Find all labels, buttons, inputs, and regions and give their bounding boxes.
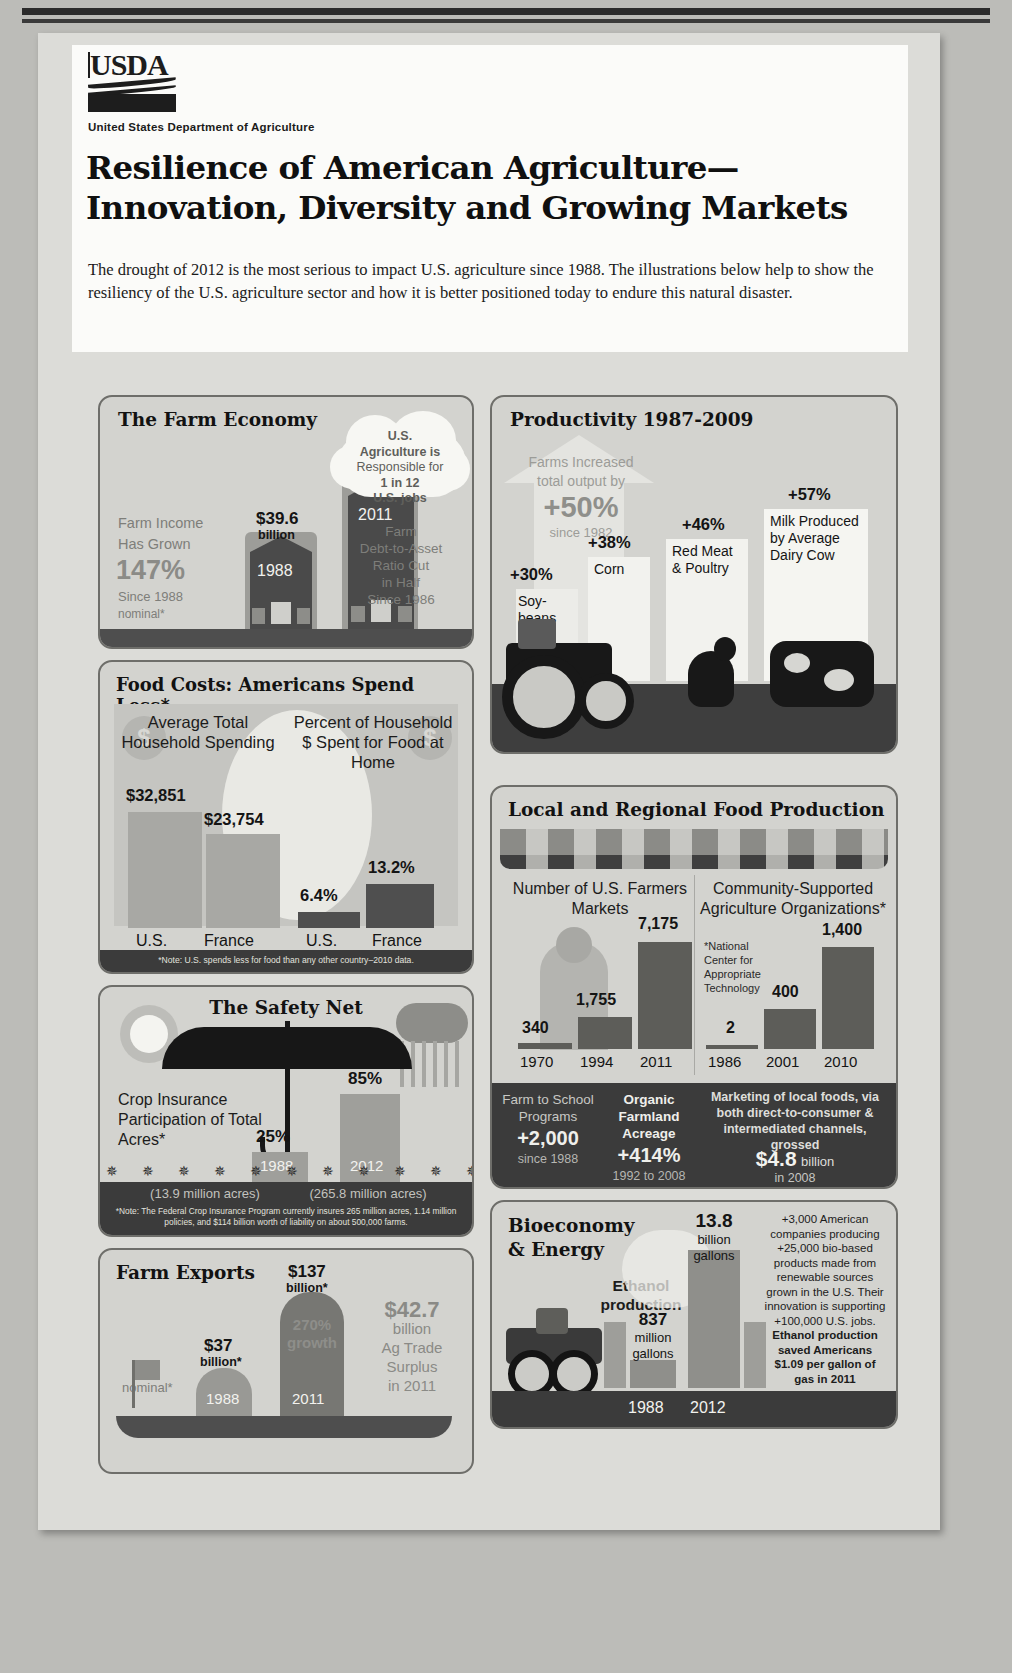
csa-footnote: *National Center for Appropriate Technol… — [704, 939, 776, 995]
label-red-meat-poultry: Red Meat & Poultry — [672, 543, 744, 577]
title-line-1: Resilience of American Agriculture— — [86, 148, 886, 188]
chicken-head — [714, 637, 736, 661]
jobs-cloud: U.S. Agriculture is Responsible for 1 in… — [330, 411, 470, 513]
flag-pole — [132, 1360, 135, 1408]
cloud-line-4: 1 in 12 — [330, 476, 470, 492]
value-csa-1986: 2 — [726, 1019, 735, 1037]
tractor-cab — [518, 619, 556, 649]
year-markets-1994: 1994 — [580, 1053, 613, 1070]
surplus-l4: in 2011 — [364, 1376, 460, 1395]
bioeconomy-title-text: Bioeconomy & Energy — [508, 1215, 635, 1260]
surplus-l3: Surplus — [364, 1357, 460, 1376]
food-costs-note: *Note: U.S. spends less for food than an… — [100, 955, 472, 966]
panel-productivity: Productivity 1987-2009 Farms Increased t… — [490, 395, 898, 754]
value-2012-insurance: 85% — [348, 1069, 382, 1089]
farm-to-school-sub: since 1988 — [498, 1151, 598, 1168]
cow-spot-2 — [824, 669, 854, 691]
year-ethanol-2012: 2012 — [690, 1399, 726, 1417]
marketing-big: $4.8 — [756, 1147, 797, 1170]
arrow-line-2: total output by — [506, 472, 656, 491]
farm-to-school-big: +2,000 — [498, 1125, 598, 1151]
title-line-2: Innovation, Diversity and Growing Market… — [86, 188, 886, 228]
top-rule-thick — [22, 8, 990, 15]
infographic-page: USDA United States Department of Agricul… — [0, 0, 1012, 1673]
usda-logo: USDA — [88, 52, 176, 112]
cloud-line-2: Agriculture is — [330, 445, 470, 461]
export-growth: 270% growth — [280, 1316, 344, 1352]
value-csa-2001: 400 — [772, 983, 799, 1001]
farm-exports-nominal: nominal* — [122, 1380, 173, 1395]
debt-line-4: in Half — [336, 574, 466, 591]
ship-icon — [116, 1416, 452, 1438]
marketing-sub: in 2008 — [700, 1170, 890, 1186]
farm-income-pct: 147% — [116, 555, 185, 586]
panel-farm-exports: Farm Exports nominal* 1988 $37 billion* … — [98, 1248, 474, 1474]
barn-1988-unit: billion — [258, 528, 295, 542]
organic-farmland-title: Organic Farmland Acreage — [602, 1091, 696, 1142]
flag-icon — [134, 1360, 160, 1380]
logo-wordmark: USDA — [90, 50, 176, 80]
organic-farmland-sub: 1992 to 2008 — [602, 1168, 696, 1185]
farmer-head — [556, 927, 592, 963]
silo-1988-year: 1988 — [206, 1390, 239, 1407]
farm-economy-ground — [100, 629, 472, 647]
label-france-1: France — [204, 932, 254, 950]
panel-divider — [694, 875, 695, 1075]
corn-stalks-2 — [744, 1322, 766, 1388]
surplus-big: $42.7 — [364, 1300, 460, 1319]
label-corn: Corn — [594, 561, 624, 577]
local-regional-footer: Farm to School Programs +2,000 since 198… — [492, 1083, 896, 1187]
value-us-spending: $32,851 — [126, 786, 186, 805]
productivity-title: Productivity 1987-2009 — [510, 409, 753, 430]
sun-core — [130, 1015, 168, 1053]
value-us-foodpct: 6.4% — [300, 886, 338, 905]
awning-scallops — [500, 855, 888, 869]
page-title: Resilience of American Agriculture— Inno… — [86, 148, 886, 228]
cow-spot-1 — [784, 653, 810, 673]
value-csa-2010: 1,400 — [822, 921, 862, 939]
cloud-line-1: U.S. — [330, 429, 470, 445]
csa-heading: Community-Supported Agriculture Organiza… — [700, 879, 886, 919]
bar-csa-1986 — [706, 1045, 758, 1049]
pct-corn: +38% — [588, 533, 631, 552]
farm-income-line1: Farm Income — [118, 515, 203, 531]
farm-income-nominal: nominal* — [118, 607, 165, 621]
food-costs-note-band: *Note: U.S. spends less for food than an… — [100, 950, 472, 972]
crop-row-icons: ✵✵✵✵✵✵✵✵✵✵✵ — [106, 1163, 466, 1181]
marketing-text: Marketing of local foods, via both direc… — [700, 1089, 890, 1153]
year-csa-2001: 2001 — [766, 1053, 799, 1070]
safety-net-left-text: Crop Insurance Participation of Total Ac… — [118, 1090, 268, 1150]
rain-cloud-icon — [396, 1003, 468, 1043]
bar-ethanol-2012 — [688, 1250, 740, 1388]
cloud-line-5: U.S. jobs — [330, 491, 470, 507]
farmers-markets-heading: Number of U.S. Farmers Markets — [510, 879, 690, 919]
logo-swoosh — [88, 78, 176, 94]
year-csa-2010: 2010 — [824, 1053, 857, 1070]
bioeconomy-side-text-2: Ethanol production saved Americans $1.09… — [764, 1328, 886, 1386]
pct-red-meat-poultry: +46% — [682, 515, 725, 534]
bar-markets-1994 — [578, 1017, 632, 1049]
surplus-l2: Ag Trade — [364, 1338, 460, 1357]
page-subtitle: The drought of 2012 is the most serious … — [88, 258, 878, 304]
tractor-wheel-big — [502, 655, 586, 739]
silo-2011-value: $137 — [288, 1262, 326, 1282]
acres-1988: (13.9 million acres) — [120, 1186, 290, 1201]
unit-ethanol-1988: million gallons — [616, 1330, 690, 1362]
bar-csa-2010 — [822, 947, 874, 1049]
farm-economy-title: The Farm Economy — [118, 409, 317, 430]
panel-safety-net: The Safety Net Crop Insurance Participat… — [98, 985, 474, 1237]
bar-csa-2001 — [764, 1009, 816, 1049]
arrow-line-1: Farms Increased — [506, 453, 656, 472]
barn-1988-value: $39.6 — [256, 509, 299, 529]
panel-local-regional: Local and Regional Food Production Numbe… — [490, 785, 898, 1189]
truck-cab — [536, 1308, 568, 1334]
debt-line-5: Since 1986 — [336, 591, 466, 608]
bar-us-foodpct — [298, 912, 360, 928]
value-1988-insurance: 25% — [256, 1127, 290, 1147]
pct-milk: +57% — [788, 485, 831, 504]
local-regional-title: Local and Regional Food Production — [508, 799, 884, 820]
farm-exports-title: Farm Exports — [116, 1262, 255, 1283]
corn-stalks — [604, 1322, 626, 1388]
value-markets-1970: 340 — [522, 1019, 549, 1037]
debt-line-1: Farm — [336, 523, 466, 540]
